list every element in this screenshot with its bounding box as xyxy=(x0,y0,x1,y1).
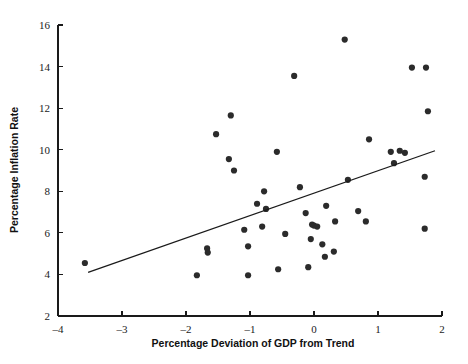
scatter-point xyxy=(261,188,267,194)
x-axis-title: Percentage Deviation of GDP from Trend xyxy=(152,337,355,349)
scatter-point xyxy=(303,210,309,216)
scatter-point xyxy=(423,65,429,71)
scatter-point xyxy=(388,149,394,155)
x-tick-label: 0 xyxy=(311,323,317,335)
y-tick-label: 10 xyxy=(39,144,51,156)
scatter-point xyxy=(228,112,234,118)
scatter-point xyxy=(308,236,314,242)
x-tick-label: 1 xyxy=(375,323,381,335)
regression-line-segment xyxy=(88,151,435,273)
scatter-point xyxy=(245,243,251,249)
regression-line xyxy=(88,151,435,273)
data-points xyxy=(82,36,431,278)
scatter-point xyxy=(275,266,281,272)
y-tick-label: 8 xyxy=(45,185,51,197)
plot-canvas: –4–3–2–1012 246810121416 Percentage Devi… xyxy=(0,0,468,364)
y-axis-title: Percentage Inflation Rate xyxy=(8,107,20,233)
scatter-point xyxy=(332,218,338,224)
y-tick-label: 2 xyxy=(45,310,51,322)
scatter-point xyxy=(274,149,280,155)
scatter-point xyxy=(314,224,320,230)
scatter-point xyxy=(422,174,428,180)
scatter-point xyxy=(319,241,325,247)
y-tick-label: 14 xyxy=(39,61,51,73)
scatter-point xyxy=(322,254,328,260)
y-tick-labels: 246810121416 xyxy=(39,19,51,322)
scatter-point xyxy=(254,201,260,207)
scatter-point xyxy=(363,218,369,224)
scatter-point xyxy=(259,224,265,230)
scatter-point xyxy=(409,65,415,71)
scatter-point xyxy=(245,272,251,278)
scatter-point xyxy=(422,226,428,232)
y-tick-label: 6 xyxy=(45,227,51,239)
scatter-point xyxy=(305,264,311,270)
scatter-point xyxy=(205,250,211,256)
scatter-point xyxy=(213,131,219,137)
x-tick-label: –4 xyxy=(52,323,65,335)
scatter-point xyxy=(231,167,237,173)
x-tick-label: –2 xyxy=(180,323,192,335)
scatter-point xyxy=(331,248,337,254)
scatter-point xyxy=(323,203,329,209)
y-tick-label: 4 xyxy=(45,268,51,280)
scatter-point xyxy=(226,156,232,162)
axes xyxy=(58,25,442,316)
x-tick-labels: –4–3–2–1012 xyxy=(52,323,445,335)
scatter-point xyxy=(82,260,88,266)
scatter-point xyxy=(297,184,303,190)
scatter-point xyxy=(241,227,247,233)
x-tick-label: –3 xyxy=(116,323,129,335)
scatter-point xyxy=(194,272,200,278)
scatter-plot-figure: –4–3–2–1012 246810121416 Percentage Devi… xyxy=(0,0,468,364)
scatter-point xyxy=(342,36,348,42)
scatter-point xyxy=(402,150,408,156)
scatter-point xyxy=(366,136,372,142)
scatter-point xyxy=(291,73,297,79)
x-tick-label: –1 xyxy=(244,323,256,335)
tick-marks xyxy=(58,25,442,316)
scatter-point xyxy=(282,231,288,237)
y-tick-label: 16 xyxy=(39,19,51,31)
y-tick-label: 12 xyxy=(39,102,50,114)
scatter-point xyxy=(425,108,431,114)
x-tick-label: 2 xyxy=(439,323,445,335)
scatter-point xyxy=(355,208,361,214)
